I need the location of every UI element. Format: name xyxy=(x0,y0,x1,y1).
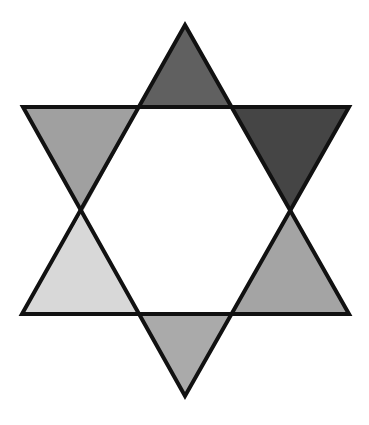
top-point xyxy=(140,25,232,107)
hexagram-star xyxy=(0,0,369,425)
star-canvas xyxy=(0,0,369,425)
bottom-point xyxy=(140,314,232,396)
star-fills xyxy=(22,25,349,396)
